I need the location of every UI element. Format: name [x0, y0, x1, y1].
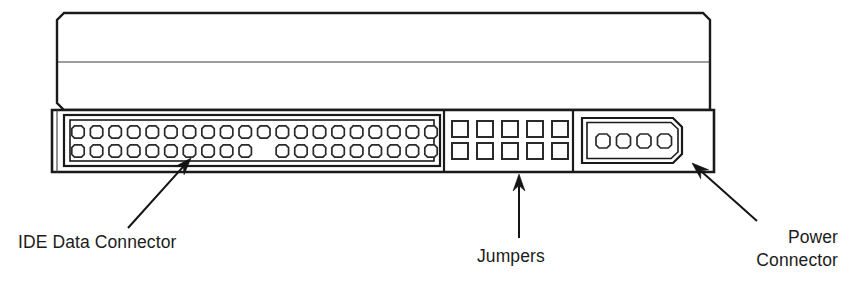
ide-pin-bottom-18: [388, 145, 400, 157]
jumper-pin-r1-c1[interactable]: [452, 121, 468, 137]
ide-pin-bottom-8: [202, 145, 214, 157]
ide-pin-top-15: [332, 126, 344, 138]
ide-pin-bottom-17: [369, 145, 381, 157]
ide-pin-top-8: [202, 126, 214, 138]
jumper-pin-r2-c3[interactable]: [502, 143, 518, 159]
ide-pin-bottom-2: [90, 145, 102, 157]
callout-leader-power-connector: [701, 171, 757, 221]
ide-pin-bottom-7: [183, 145, 195, 157]
ide-pin-top-13: [295, 126, 307, 138]
jumper-pin-r2-c5[interactable]: [552, 143, 568, 159]
power-pin-2: [617, 134, 631, 148]
ide-pin-top-14: [313, 126, 325, 138]
power-pin-3: [637, 134, 651, 148]
ide-pin-bottom-15: [332, 145, 344, 157]
power-connector[interactable]: [582, 118, 682, 163]
ide-pin-bottom-9: [220, 145, 232, 157]
label-power-connector: Power: [788, 227, 838, 247]
jumper-pin-r1-c4[interactable]: [527, 121, 543, 137]
ide-pin-top-7: [183, 126, 195, 138]
ide-pin-top-19: [406, 126, 418, 138]
ide-pin-top-5: [146, 126, 158, 138]
ide-pin-bottom-20: [425, 145, 437, 157]
jumper-pin-r1-c3[interactable]: [502, 121, 518, 137]
callout-labels-group: IDE Data Connector Jumpers Power Connect…: [18, 227, 838, 270]
ide-connector-shell: [64, 115, 440, 166]
ide-pin-top-3: [109, 126, 121, 138]
ide-pin-top-17: [369, 126, 381, 138]
ide-pin-top-2: [90, 126, 102, 138]
label-jumpers: Jumpers: [477, 246, 545, 266]
callout-leader-ide-data-connector: [128, 167, 183, 228]
ide-pin-top-9: [220, 126, 232, 138]
ide-pin-bottom-10: [239, 145, 251, 157]
ide-pin-top-4: [128, 126, 140, 138]
jumper-pin-r1-c5[interactable]: [552, 121, 568, 137]
ide-pin-top-10: [239, 126, 251, 138]
jumper-pin-r2-c4[interactable]: [527, 143, 543, 159]
jumper-pin-r1-c2[interactable]: [477, 121, 493, 137]
ide-pin-bottom-5: [146, 145, 158, 157]
hard-drive-diagram: IDE Data Connector Jumpers Power Connect…: [0, 0, 854, 289]
ide-data-connector[interactable]: [64, 115, 440, 166]
ide-pin-bottom-13: [295, 145, 307, 157]
ide-pin-bottom-1: [72, 145, 84, 157]
jumper-pin-r2-c2[interactable]: [477, 143, 493, 159]
ide-pin-top-16: [350, 126, 362, 138]
ide-pin-bottom-19: [406, 145, 418, 157]
ide-pin-top-20: [425, 126, 437, 138]
label-ide-data-connector: IDE Data Connector: [18, 232, 176, 252]
ide-pin-bottom-6: [165, 145, 177, 157]
ide-pin-bottom-14: [313, 145, 325, 157]
ide-pin-top-1: [72, 126, 84, 138]
jumper-pin-r2-c1[interactable]: [452, 143, 468, 159]
ide-pin-top-12: [276, 126, 288, 138]
drive-body-group: [57, 13, 710, 110]
ide-pin-bottom-12: [276, 145, 288, 157]
ide-pin-top-18: [388, 126, 400, 138]
power-pin-4: [658, 134, 672, 148]
power-pin-1: [596, 134, 610, 148]
ide-pin-bottom-3: [109, 145, 121, 157]
ide-pin-bottom-16: [350, 145, 362, 157]
ide-pin-top-6: [165, 126, 177, 138]
ide-pin-bottom-4: [128, 145, 140, 157]
label-power-connector-line2: Connector: [756, 250, 838, 270]
drive-diagram-canvas: IDE Data Connector Jumpers Power Connect…: [0, 0, 854, 289]
ide-pin-top-11: [258, 126, 270, 138]
